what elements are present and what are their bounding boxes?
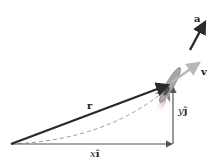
position-vector: [11, 85, 168, 144]
velocity-label: v: [201, 67, 207, 77]
x-component-label: xî: [90, 149, 99, 159]
rocket-icon: [152, 63, 188, 107]
acceleration-vector: [190, 22, 205, 50]
i-unit-vector: î: [96, 148, 100, 159]
y-component-label: yĵ: [178, 106, 187, 116]
position-label: r: [87, 101, 92, 111]
j-unit-vector: ĵ: [184, 105, 188, 116]
acceleration-label: a: [194, 14, 200, 24]
vector-diagram: [0, 0, 213, 164]
